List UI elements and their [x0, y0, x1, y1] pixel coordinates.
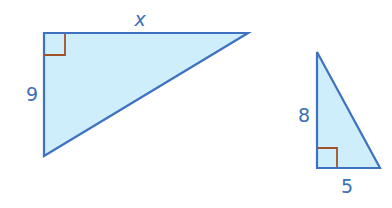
small-triangle: 8 5 — [298, 52, 380, 197]
side-label-5: 5 — [341, 175, 353, 197]
side-label-8: 8 — [298, 104, 310, 126]
large-triangle: x 9 — [26, 8, 248, 156]
small-triangle-shape — [317, 52, 380, 168]
diagram-canvas: x 9 8 5 — [0, 0, 392, 208]
large-triangle-shape — [44, 33, 248, 156]
similar-right-triangles-diagram: x 9 8 5 — [0, 0, 392, 208]
side-label-9: 9 — [26, 83, 38, 105]
side-label-x: x — [133, 8, 146, 30]
